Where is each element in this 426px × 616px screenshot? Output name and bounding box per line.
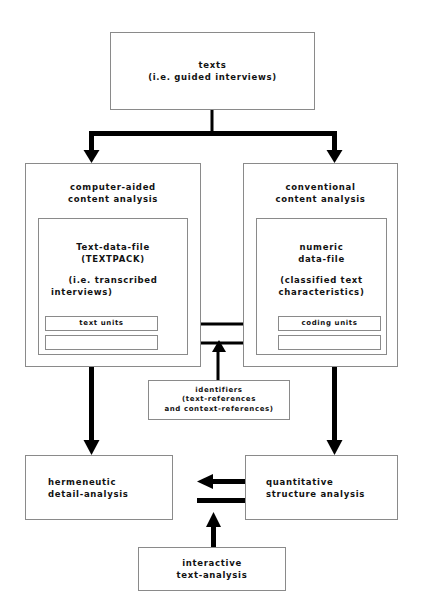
connector-split-left-stem	[89, 131, 94, 153]
node-numeric-data-file-line1: numeric	[300, 241, 344, 253]
node-computer-aided-line2: content analysis	[68, 193, 158, 205]
node-numeric-data-file-line4: characteristics)	[279, 286, 365, 298]
node-computer-aided-line1: computer-aided	[70, 181, 156, 193]
node-quantitative-line1: quantitative	[266, 476, 333, 488]
node-interactive-line1: interactive	[182, 557, 242, 569]
node-texts[interactable]: texts (i.e. guided interviews)	[110, 32, 315, 110]
node-conventional-line2: content analysis	[275, 193, 365, 205]
node-interactive-text-analysis[interactable]: interactive text-analysis	[138, 547, 286, 591]
node-coding-units-empty[interactable]	[278, 335, 381, 350]
connector-left-down-arrowhead	[84, 440, 100, 455]
connector-split-bar	[89, 131, 337, 136]
connector-split-right-stem	[332, 131, 337, 153]
node-quantitative-structure-analysis[interactable]: quantitative structure analysis	[245, 455, 398, 520]
node-texts-line1: texts	[199, 59, 227, 71]
connector-rtl-arrowhead	[197, 474, 213, 489]
connector-right-down-arrowhead	[327, 440, 343, 455]
node-hermeneutic-detail-analysis[interactable]: hermeneutic detail-analysis	[25, 455, 173, 520]
node-text-data-file-line3: (i.e. transcribed	[68, 274, 157, 286]
node-interactive-line2: text-analysis	[176, 569, 247, 581]
node-texts-line2: (i.e. guided interviews)	[148, 71, 277, 83]
node-conventional-line1: conventional	[285, 181, 355, 193]
node-hermeneutic-line2: detail-analysis	[48, 488, 129, 500]
node-hermeneutic-line1: hermeneutic	[48, 476, 116, 488]
node-coding-units-label: coding units	[302, 319, 358, 329]
connector-identifiers-arrowhead	[212, 340, 226, 352]
connector-right-down-stem	[332, 367, 337, 443]
node-identifiers-line2: (text-references	[182, 395, 256, 405]
connector-left-down-stem	[89, 367, 94, 443]
connector-texts-stem	[211, 110, 214, 134]
node-identifiers-line3: and context-references)	[164, 405, 273, 415]
node-text-units-label: text units	[79, 319, 123, 329]
connector-interactive-arrowhead	[206, 512, 221, 527]
node-identifiers-line1: identifiers	[195, 386, 242, 396]
connector-split-left-arrowhead	[84, 150, 100, 163]
node-coding-units[interactable]: coding units	[278, 316, 381, 331]
connector-interactive-stem	[211, 527, 216, 547]
diagram-canvas: texts (i.e. guided interviews) computer-…	[0, 0, 426, 616]
node-text-data-file-line1: Text-data-file	[76, 241, 150, 253]
node-numeric-data-file-line2: data-file	[298, 253, 345, 265]
node-quantitative-line2: structure analysis	[266, 488, 365, 500]
node-text-data-file-line4: interviews)	[51, 286, 113, 298]
connector-identifiers-stem	[217, 350, 220, 380]
node-text-units-empty[interactable]	[45, 335, 158, 350]
node-text-data-file-line2: (TEXTPACK)	[81, 253, 145, 265]
node-text-units[interactable]: text units	[45, 316, 158, 331]
connector-split-right-arrowhead	[327, 150, 343, 163]
node-numeric-data-file-line3: (classified text	[280, 274, 363, 286]
node-identifiers[interactable]: identifiers (text-references and context…	[148, 380, 290, 420]
